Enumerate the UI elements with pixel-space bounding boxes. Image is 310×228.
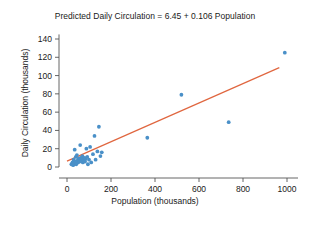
y-tick-label: 80 (43, 89, 53, 99)
x-axis: 02004006008001000 (59, 178, 298, 194)
data-point (84, 147, 88, 151)
data-point (99, 154, 103, 158)
x-tick-label: 0 (65, 184, 70, 194)
data-point (91, 152, 95, 156)
y-tick-label: 140 (38, 34, 52, 44)
x-tick-label: 600 (192, 184, 206, 194)
data-point (145, 136, 149, 140)
x-tick-label: 400 (148, 184, 162, 194)
data-points (70, 51, 287, 167)
x-tick-label: 800 (236, 184, 250, 194)
data-point (89, 161, 93, 165)
plot-area: 020406080100120140 02004006008001000 (0, 0, 310, 228)
y-tick-label: 40 (43, 125, 53, 135)
regression-line (67, 68, 279, 162)
data-point (95, 150, 99, 154)
data-point (97, 125, 101, 129)
y-tick-label: 100 (38, 71, 52, 81)
data-point (75, 153, 79, 157)
y-axis-ticks: 020406080100120140 (38, 34, 59, 172)
data-point (180, 93, 184, 97)
data-point (88, 145, 92, 149)
data-point (86, 162, 90, 166)
x-axis-ticks: 02004006008001000 (65, 178, 297, 194)
data-point (78, 143, 82, 147)
y-tick-label: 120 (38, 52, 52, 62)
data-point (283, 51, 287, 55)
data-point (227, 120, 231, 124)
data-point (93, 134, 97, 138)
x-tick-label: 1000 (278, 184, 297, 194)
data-point (100, 150, 104, 154)
data-point (73, 148, 77, 152)
y-tick-label: 20 (43, 144, 53, 154)
x-tick-label: 200 (104, 184, 118, 194)
scatter-plot-figure: Predicted Daily Circulation = 6.45 + 0.1… (0, 0, 310, 228)
least-squares-line (67, 68, 279, 162)
data-point (94, 158, 98, 162)
y-tick-label: 0 (47, 162, 52, 172)
y-tick-label: 60 (43, 107, 53, 117)
y-axis: 020406080100120140 (38, 34, 59, 172)
